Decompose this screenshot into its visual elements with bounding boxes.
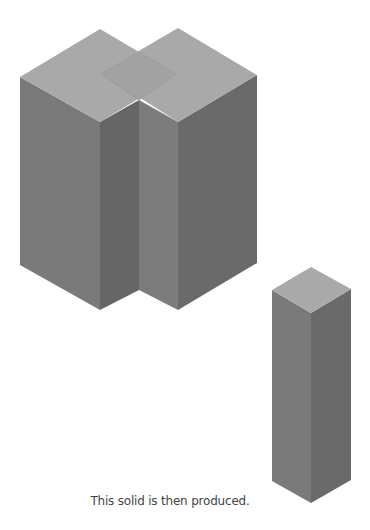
combined-solid [20,28,257,310]
right-prism-left-face [139,100,178,310]
solids-diagram [0,0,370,530]
left-prism-right-face [100,100,139,310]
produced-solid [272,267,351,503]
caption: This solid is then produced. [0,494,340,508]
produced-left-face [272,290,311,503]
produced-right-face [311,289,351,503]
